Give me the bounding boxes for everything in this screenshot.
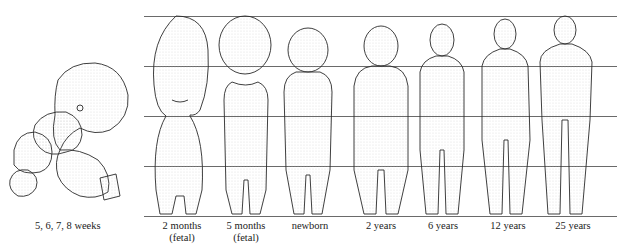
figure-newborn bbox=[284, 28, 332, 214]
figure-label-newborn: newborn bbox=[290, 220, 330, 232]
figure-label-line1: 5 months bbox=[226, 220, 266, 232]
figure-label-line1: newborn bbox=[290, 220, 330, 232]
figure-12-years bbox=[482, 19, 530, 214]
figure-label-2-months: 2 months (fetal) bbox=[162, 220, 202, 244]
figure-label-5-months: 5 months (fetal) bbox=[226, 220, 266, 244]
figure-25-years bbox=[540, 16, 592, 214]
figure-label-6-years: 6 years bbox=[423, 220, 463, 232]
figure-label-line2: (fetal) bbox=[162, 232, 202, 244]
figure-label-line1: 6 years bbox=[423, 220, 463, 232]
figure-label-line1: 25 years bbox=[551, 220, 595, 232]
figure-label-25-years: 25 years bbox=[551, 220, 595, 232]
figure-label-2-years: 2 years bbox=[361, 220, 401, 232]
figure-label-line2: (fetal) bbox=[226, 232, 266, 244]
figure-2-years bbox=[354, 26, 408, 214]
figures-illustration bbox=[0, 0, 620, 251]
figure-label-line1: 2 years bbox=[361, 220, 401, 232]
embryo-group-illustration bbox=[10, 63, 129, 200]
embryo-group-label: 5, 6, 7, 8 weeks bbox=[35, 220, 101, 232]
figure-label-line1: 12 years bbox=[486, 220, 530, 232]
figure-6-years bbox=[420, 24, 464, 214]
figure-label-12-years: 12 years bbox=[486, 220, 530, 232]
figure-label-line1: 2 months bbox=[162, 220, 202, 232]
figure-2-months bbox=[153, 16, 208, 214]
figure-5-months bbox=[219, 16, 271, 214]
